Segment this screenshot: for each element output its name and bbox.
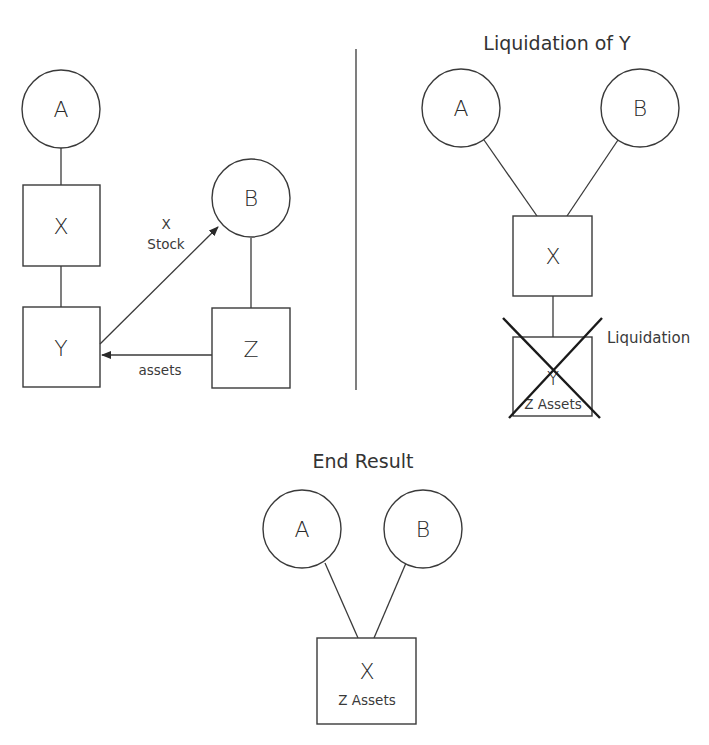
node-a-label: A	[453, 96, 468, 121]
node-b-label: B	[633, 96, 647, 121]
node-z-label: Z	[243, 337, 258, 362]
end-result-title: End Result	[313, 450, 414, 472]
node-x: X	[513, 216, 592, 296]
node-b: B	[212, 159, 290, 237]
node-x-label: X	[359, 659, 374, 684]
node-a: A	[22, 70, 100, 148]
node-y-sublabel: Z Assets	[524, 396, 581, 412]
node-a: A	[422, 69, 500, 147]
panel-before: A X Y B Z X Stock assets	[22, 70, 290, 388]
node-b-label: B	[244, 186, 258, 211]
node-a: A	[263, 490, 341, 568]
node-a-label: A	[294, 517, 309, 542]
edge-a-x	[484, 140, 537, 216]
node-x-label: X	[545, 244, 560, 269]
panel-liquidation: Liquidation of Y A B X Y Z Assets Liquid…	[422, 32, 690, 418]
node-b: B	[384, 490, 462, 568]
node-y-liquidated: Y Z Assets	[513, 337, 592, 416]
node-x-sublabel: Z Assets	[338, 692, 395, 708]
edge-a-x	[325, 563, 358, 638]
liquidation-title: Liquidation of Y	[483, 32, 631, 54]
node-b-label: B	[416, 517, 430, 542]
node-x: X	[23, 185, 100, 266]
liquidation-annotation: Liquidation	[607, 329, 690, 347]
node-x-label: X	[53, 214, 68, 239]
stock-label-line1: X	[161, 216, 170, 232]
node-y-label: Y	[54, 336, 67, 361]
node-z: Z	[212, 308, 290, 388]
assets-label: assets	[139, 362, 182, 378]
node-b: B	[601, 69, 679, 147]
diagram-canvas: A X Y B Z X Stock assets Liquidat	[0, 0, 709, 745]
panel-end-result: End Result A B X Z Assets	[263, 450, 462, 724]
node-y: Y	[23, 307, 100, 387]
edge-b-x	[374, 563, 406, 638]
node-x: X Z Assets	[317, 638, 416, 724]
edge-b-x	[567, 140, 618, 216]
node-a-label: A	[53, 97, 68, 122]
stock-label-line2: Stock	[147, 236, 185, 252]
